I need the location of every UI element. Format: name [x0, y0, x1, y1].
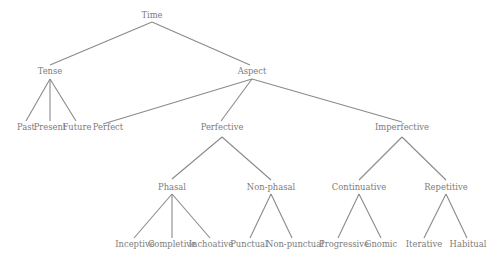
- node-repetitive: Repetitive: [424, 182, 467, 192]
- edge-phasal-inceptive: [134, 194, 172, 238]
- node-inchoative: Inchoative: [189, 239, 234, 249]
- tree-canvas: TimeTenseAspectPastPresentFuturePerfectP…: [0, 0, 497, 261]
- edge-non-phasal-non-punctual: [271, 194, 292, 238]
- edge-perfective-phasal: [172, 137, 222, 179]
- edge-repetitive-habitual: [446, 194, 467, 238]
- node-gnomic: Gnomic: [365, 239, 398, 249]
- edge-non-phasal-punctual: [250, 194, 271, 238]
- node-aspect: Aspect: [237, 66, 267, 76]
- node-punctual: Punctual: [230, 239, 268, 249]
- node-habitual: Habitual: [450, 239, 487, 249]
- time-taxonomy-tree: TimeTenseAspectPastPresentFuturePerfectP…: [0, 0, 497, 261]
- edge-continuative-progressive: [338, 194, 359, 238]
- edge-aspect-perfective: [221, 79, 252, 121]
- edge-tense-future: [50, 79, 76, 121]
- edge-time-tense: [50, 22, 152, 65]
- node-continuative: Continuative: [332, 182, 386, 192]
- node-progressive: Progressive: [319, 239, 369, 249]
- node-time: Time: [141, 10, 162, 20]
- node-future: Future: [63, 122, 92, 132]
- edge-time-aspect: [152, 22, 250, 65]
- node-perfect: Perfect: [93, 122, 124, 132]
- node-perfective: Perfective: [201, 122, 244, 132]
- node-phasal: Phasal: [158, 182, 186, 192]
- edge-repetitive-iterative: [424, 194, 446, 238]
- edge-imperfective-continuative: [359, 137, 402, 180]
- edge-phasal-inchoative: [172, 194, 210, 238]
- node-tense: Tense: [38, 66, 63, 76]
- edge-tense-past: [26, 79, 50, 121]
- edge-imperfective-repetitive: [402, 137, 446, 180]
- edge-aspect-perfect: [103, 79, 252, 124]
- tree-nodes: TimeTenseAspectPastPresentFuturePerfectP…: [17, 10, 487, 249]
- node-imperfective: Imperfective: [375, 122, 429, 132]
- edge-aspect-imperfective: [252, 79, 402, 122]
- node-non-phasal: Non-phasal: [247, 182, 296, 192]
- node-iterative: Iterative: [406, 239, 442, 249]
- edge-perfective-non-phasal: [222, 137, 271, 180]
- node-non-punctual: Non-punctual: [266, 239, 324, 249]
- edge-continuative-gnomic: [359, 194, 381, 238]
